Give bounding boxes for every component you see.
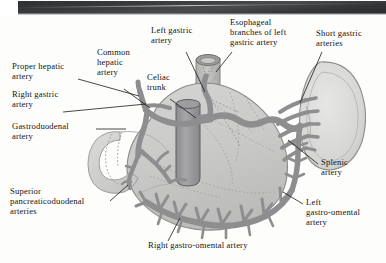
label-right-gastric-artery: Right gastric artery xyxy=(12,89,58,109)
label-celiac-trunk: Celiac trunk xyxy=(147,72,170,92)
label-short-gastric-arteries: Short gastric arteries xyxy=(316,28,362,48)
label-right-gastro-omental-artery: Right gastro-omental artery xyxy=(148,240,248,250)
label-left-gastric-artery: Left gastric artery xyxy=(151,25,192,45)
label-superior-pancreaticoduodenal: Superior pancreaticoduodenal arteries xyxy=(10,186,84,217)
label-common-hepatic-artery: Common hepatic artery xyxy=(97,47,130,78)
label-esophageal-branches: Esophageal branches of left gastric arte… xyxy=(230,17,286,48)
label-gastroduodenal-artery: Gastroduodenal artery xyxy=(12,121,69,141)
label-splenic-artery: Splenic artery xyxy=(321,157,348,177)
anatomy-figure: Proper hepatic artery Right gastric arte… xyxy=(0,0,386,263)
spleen xyxy=(299,62,365,170)
label-proper-hepatic-artery: Proper hepatic artery xyxy=(12,61,64,81)
leader-right-gastric-artery xyxy=(63,104,146,112)
label-left-gastro-omental-artery: Left gastro-omental artery xyxy=(306,197,360,228)
